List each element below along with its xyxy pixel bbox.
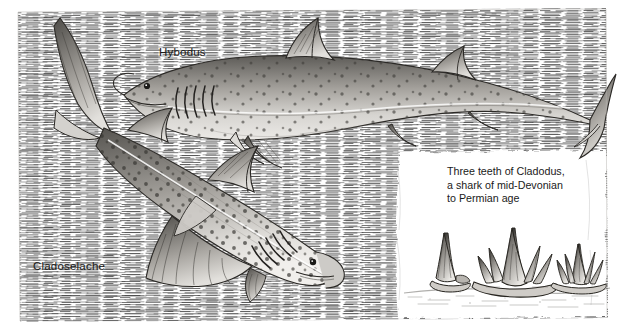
caption-line-2: a shark of mid-Devonian bbox=[447, 179, 565, 193]
teeth-caption: Three teeth of Cladodus, a shark of mid-… bbox=[447, 165, 565, 206]
label-cladoselache: Cladoselache bbox=[33, 260, 105, 272]
label-hybodus: Hybodus bbox=[159, 46, 206, 58]
illustration-plate: Hybodus Cladoselache Three teeth of Clad… bbox=[0, 0, 618, 333]
caption-line-3: to Permian age bbox=[447, 192, 565, 206]
caption-line-1: Three teeth of Cladodus, bbox=[447, 165, 565, 179]
